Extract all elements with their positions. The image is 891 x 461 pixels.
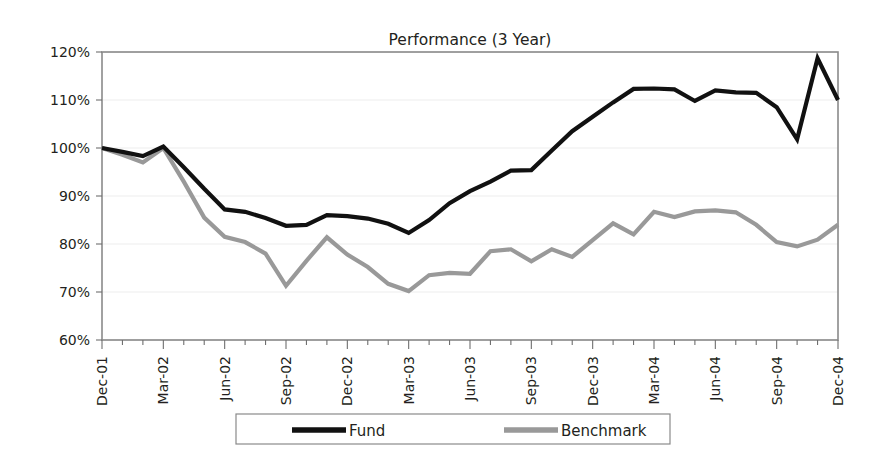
data-series-group xyxy=(102,58,838,291)
x-axis-tick-label: Sep-02 xyxy=(278,356,294,405)
x-axis-ticks xyxy=(102,340,838,349)
y-axis-tick-label: 100% xyxy=(50,140,90,156)
x-axis-tick-label: Sep-04 xyxy=(769,356,785,405)
x-axis-tick-label: Mar-02 xyxy=(155,356,171,404)
series-line-benchmark xyxy=(102,148,838,291)
y-axis-tick-label: 60% xyxy=(59,332,90,348)
x-axis-tick-labels: Dec-01Mar-02Jun-02Sep-02Dec-02Mar-03Jun-… xyxy=(94,356,846,406)
legend-label-benchmark: Benchmark xyxy=(561,422,647,440)
x-axis-tick-label: Mar-03 xyxy=(401,356,417,404)
y-axis-tick-label: 90% xyxy=(59,188,90,204)
y-axis-tick-label: 70% xyxy=(59,284,90,300)
chart-canvas: 120%110%100%90%80%70%60% Dec-01Mar-02Jun… xyxy=(0,0,891,461)
x-axis-tick-label: Jun-04 xyxy=(707,356,723,402)
y-axis-tick-label: 80% xyxy=(59,236,90,252)
y-axis-tick-labels: 120%110%100%90%80%70%60% xyxy=(50,44,90,348)
x-axis-tick-label: Jun-02 xyxy=(217,356,233,402)
x-axis-tick-label: Mar-04 xyxy=(646,356,662,404)
series-line-fund xyxy=(102,58,838,233)
x-axis-tick-label: Sep-03 xyxy=(523,356,539,405)
y-axis-tick-label: 110% xyxy=(50,92,90,108)
x-axis-tick-label: Jun-03 xyxy=(462,356,478,402)
x-axis-tick-label: Dec-04 xyxy=(830,356,846,406)
x-axis-tick-label: Dec-03 xyxy=(585,356,601,406)
y-axis-ticks xyxy=(96,52,102,340)
chart-legend: FundBenchmark xyxy=(236,414,670,444)
chart-title: Performance (3 Year) xyxy=(389,31,552,49)
x-axis-tick-label: Dec-02 xyxy=(339,356,355,406)
x-axis-tick-label: Dec-01 xyxy=(94,356,110,406)
y-axis-tick-label: 120% xyxy=(50,44,90,60)
performance-chart: 120%110%100%90%80%70%60% Dec-01Mar-02Jun… xyxy=(0,0,891,461)
legend-label-fund: Fund xyxy=(349,422,385,440)
